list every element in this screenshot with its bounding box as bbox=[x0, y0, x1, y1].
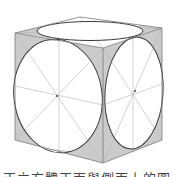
left-circle-center bbox=[56, 95, 58, 97]
cube-circles-diagram bbox=[0, 0, 174, 177]
figure-caption: 正立方體正面與側面上的圓 bbox=[0, 168, 174, 177]
top-face-circle bbox=[37, 22, 143, 41]
left-face bbox=[6, 33, 109, 163]
caption-text: 正立方體正面與側面上的圓 bbox=[3, 171, 171, 177]
right-circle-center bbox=[134, 90, 136, 92]
right-face bbox=[101, 28, 167, 163]
